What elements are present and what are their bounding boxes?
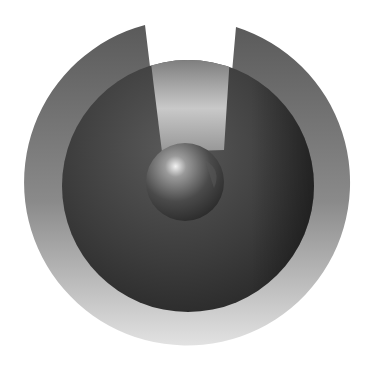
light-beam [150, 55, 230, 152]
emblem-graphic [0, 0, 374, 371]
